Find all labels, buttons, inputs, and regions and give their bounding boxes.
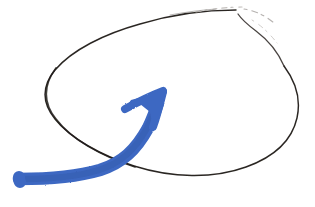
drawing-canvas: Hand-drawn ellipse encircled by an upwar… [0,0,315,207]
sketch-illustration: Hand-drawn ellipse encircled by an upwar… [0,0,315,207]
arrow-tail-cap [19,177,20,182]
